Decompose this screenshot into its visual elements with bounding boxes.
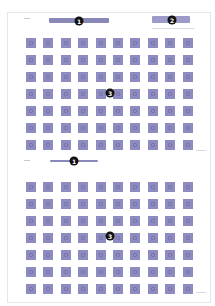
grid-icon (78, 123, 88, 133)
grid-icon (43, 72, 53, 82)
grid-icon (148, 250, 158, 260)
grid-icon (113, 182, 123, 192)
grid-icon (130, 140, 140, 150)
grid-icon (113, 123, 123, 133)
grid-icon (165, 106, 175, 116)
grid-icon (78, 216, 88, 226)
grid-icon (43, 38, 53, 48)
grid-icon (96, 267, 106, 277)
grid-icon (26, 89, 36, 99)
grid-icon (113, 55, 123, 65)
grid-icon (148, 182, 158, 192)
grid-icon (183, 55, 193, 65)
grid-icon (165, 250, 175, 260)
grid-icon (130, 199, 140, 209)
grid-icon (96, 38, 106, 48)
grid-icon (96, 106, 106, 116)
grid-icon (26, 250, 36, 260)
grid-icon (130, 267, 140, 277)
grid-icon (78, 55, 88, 65)
grid-icon (26, 55, 36, 65)
grid-icon (96, 216, 106, 226)
grid-icon (26, 140, 36, 150)
grid-icon (43, 199, 53, 209)
grid-icon (183, 106, 193, 116)
grid-icon (113, 106, 123, 116)
grid-icon (130, 233, 140, 243)
grid-icon (78, 284, 88, 294)
grid-icon (148, 267, 158, 277)
grid-icon (26, 123, 36, 133)
grid-icon (26, 199, 36, 209)
grid-icon (43, 267, 53, 277)
caption-text (152, 28, 194, 29)
page-number (196, 150, 206, 151)
grid-icon (183, 250, 193, 260)
grid-icon (26, 106, 36, 116)
grid-icon (61, 199, 71, 209)
grid-icon (61, 284, 71, 294)
grid-icon (43, 140, 53, 150)
page-number (196, 292, 206, 293)
grid-icon (43, 284, 53, 294)
grid-icon (130, 250, 140, 260)
grid-icon (113, 38, 123, 48)
grid-icon (26, 216, 36, 226)
grid-icon (165, 72, 175, 82)
grid-icon (130, 284, 140, 294)
grid-icon (61, 123, 71, 133)
grid-icon (78, 140, 88, 150)
grid-icon (96, 89, 106, 99)
grid-icon (113, 199, 123, 209)
grid-icon (96, 140, 106, 150)
grid-icon (148, 55, 158, 65)
section-marker (24, 18, 30, 19)
grid-icon (78, 267, 88, 277)
section-marker (24, 160, 30, 161)
grid-icon (165, 89, 175, 99)
grid-icon (26, 267, 36, 277)
grid-icon (165, 216, 175, 226)
grid-icon (78, 72, 88, 82)
grid-icon (130, 72, 140, 82)
grid-icon (96, 55, 106, 65)
grid-icon (130, 89, 140, 99)
grid-icon (26, 284, 36, 294)
grid-icon (78, 38, 88, 48)
grid-icon (148, 123, 158, 133)
grid-icon (113, 284, 123, 294)
grid-icon (148, 199, 158, 209)
grid-icon (130, 38, 140, 48)
grid-icon (61, 38, 71, 48)
grid-icon (130, 106, 140, 116)
grid-icon (61, 182, 71, 192)
grid-icon (183, 284, 193, 294)
grid-icon (26, 72, 36, 82)
grid-icon (165, 182, 175, 192)
grid-icon (148, 284, 158, 294)
grid-icon (26, 233, 36, 243)
grid-icon (130, 216, 140, 226)
grid-icon (165, 199, 175, 209)
grid-icon (26, 182, 36, 192)
grid-icon (148, 38, 158, 48)
grid-icon (78, 233, 88, 243)
grid-icon (148, 72, 158, 82)
callout-badge: 1 (70, 157, 79, 166)
grid-icon (96, 199, 106, 209)
grid-icon (165, 267, 175, 277)
grid-icon (165, 123, 175, 133)
grid-icon (43, 233, 53, 243)
grid-icon (61, 89, 71, 99)
grid-icon (61, 140, 71, 150)
grid-icon (130, 55, 140, 65)
callout-badge: 3 (106, 232, 115, 241)
grid-icon (43, 182, 53, 192)
grid-icon (43, 250, 53, 260)
grid-icon (61, 55, 71, 65)
grid-icon (78, 250, 88, 260)
grid-icon (148, 89, 158, 99)
grid-icon (96, 123, 106, 133)
grid-icon (165, 38, 175, 48)
grid-icon (43, 55, 53, 65)
